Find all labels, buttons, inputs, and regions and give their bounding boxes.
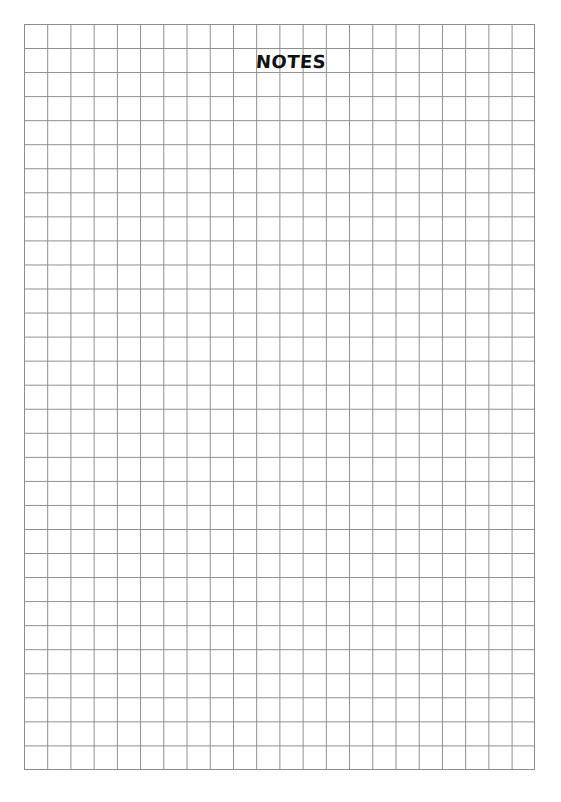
- graph-paper-grid: [24, 24, 535, 770]
- notes-page: NOTES: [0, 0, 561, 802]
- page-title: NOTES: [240, 50, 342, 74]
